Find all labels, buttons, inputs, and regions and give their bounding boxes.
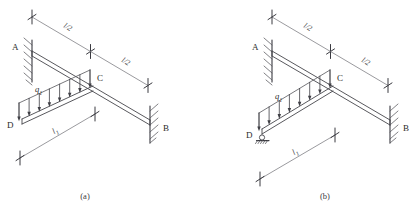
load-label-q1-b: q1 [275, 91, 282, 103]
dimension-half-span-right-a: l/2 [91, 52, 153, 93]
fixed-support-B-a: B [150, 104, 169, 143]
fixed-support-A-b: A [252, 38, 272, 85]
node-label-D-a: D [7, 120, 14, 130]
node-C-a: C [97, 73, 103, 83]
node-label-B-b: B [403, 123, 409, 133]
node-label-B-a: B [163, 123, 169, 133]
dimension-half-span-left-a: l/2 [28, 10, 95, 59]
dimension-half-span-left-b: l/2 [268, 10, 335, 59]
dimension-cross-beam-length-b: l1 [256, 128, 339, 186]
panel-caption-a: (a) [80, 191, 90, 201]
cross-beam-DC-b [262, 86, 333, 134]
node-label-D-b: D [246, 130, 253, 140]
panel-caption-b: (b) [320, 191, 330, 201]
node-label-A-a: A [12, 42, 19, 52]
panel-b: l/2 l/2 A [246, 10, 409, 201]
cross-beam-DC-a [22, 86, 93, 124]
distributed-load-q1-a: q1 [17, 70, 91, 121]
main-beam-ACB-a [32, 51, 150, 125]
main-beam-ACB-b [272, 51, 390, 125]
fixed-support-B-b: B [390, 104, 409, 143]
dimension-label-half-span-left-a: l/2 [62, 21, 74, 33]
dimension-half-span-right-b: l/2 [331, 52, 393, 93]
fixed-support-A-a: A [12, 38, 32, 85]
dimension-label-half-span-left-b: l/2 [302, 21, 314, 33]
panel-a: l/2 l/2 A [7, 10, 169, 201]
node-label-C-a: C [97, 73, 103, 83]
figure-root: l/2 l/2 A [0, 0, 416, 213]
node-label-A-b: A [252, 42, 259, 52]
dimension-label-half-span-right-b: l/2 [360, 55, 372, 67]
node-label-C-b: C [337, 73, 343, 83]
dimension-label-half-span-right-a: l/2 [120, 55, 132, 67]
load-label-q1-a: q1 [35, 84, 42, 96]
